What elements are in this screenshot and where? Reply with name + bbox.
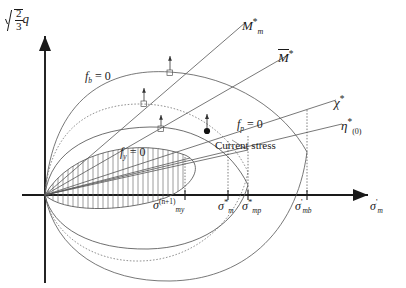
smy-superscript: (n+1) bbox=[159, 197, 176, 206]
Mbar-symbol: M bbox=[278, 49, 289, 65]
eta-subscript: (0) bbox=[352, 127, 361, 136]
x-tick-label-smy: σ(n+1)my bbox=[153, 198, 184, 214]
diagram-canvas bbox=[0, 0, 406, 288]
two-thirds-fraction: 2 3 bbox=[15, 8, 23, 32]
label-Mm: M*m bbox=[242, 18, 263, 36]
slope-lines bbox=[45, 22, 342, 195]
fb-lower-branch bbox=[45, 152, 307, 281]
chi-star: * bbox=[340, 94, 345, 104]
x-axis-label: σ'm bbox=[370, 198, 383, 215]
stress-space-diagram: 2 3 q fb = 0 fp = 0 fy = 0 M*m M* χ* η*(… bbox=[0, 0, 406, 288]
current-stress-dot bbox=[204, 128, 210, 134]
intermediate-surface-dotted bbox=[45, 104, 248, 261]
fraction-denominator: 3 bbox=[15, 20, 23, 33]
label-current-stress: Current stress bbox=[215, 140, 276, 151]
fb-upper-branch bbox=[45, 72, 307, 195]
fb-equation: = 0 bbox=[92, 69, 111, 83]
y-axis-label: 2 3 q bbox=[6, 8, 29, 32]
sqrt-radical-icon: 2 3 bbox=[6, 8, 23, 32]
smstar-subscript: m bbox=[228, 206, 233, 215]
x-tick-label-smb: σ'mb bbox=[295, 198, 312, 215]
smb-subscript: mb bbox=[302, 206, 311, 215]
label-fp-equals-zero: fp = 0 bbox=[237, 118, 263, 133]
line-through-current-stress bbox=[45, 150, 248, 195]
fp-equation: = 0 bbox=[244, 117, 263, 131]
Mm-symbol: M bbox=[242, 18, 253, 33]
eta-star: * bbox=[347, 117, 352, 127]
Mm-star: * bbox=[253, 17, 258, 27]
normality-markers bbox=[141, 56, 173, 132]
x-tick-label-sm-star: σ*m bbox=[218, 198, 234, 215]
fy-equation: = 0 bbox=[127, 145, 146, 159]
label-fy-equals-zero: fy = 0 bbox=[120, 146, 145, 161]
Mm-subscript: m bbox=[258, 27, 264, 36]
y-axis-variable: q bbox=[23, 11, 30, 26]
x-tick-label-smp: σ*mp bbox=[242, 198, 261, 215]
xaxis-subscript: m bbox=[377, 206, 382, 215]
normality-marker-fb bbox=[167, 56, 173, 76]
smy-subscript: my bbox=[176, 205, 185, 214]
label-chi: χ* bbox=[334, 95, 344, 109]
Mbar-star: * bbox=[289, 49, 294, 59]
bounding-surface-fb bbox=[45, 72, 307, 281]
smp-subscript: mp bbox=[252, 206, 261, 215]
label-fb-equals-zero: fb = 0 bbox=[85, 70, 111, 85]
label-eta: η*(0) bbox=[341, 118, 362, 136]
label-Mbar: M* bbox=[278, 50, 294, 64]
